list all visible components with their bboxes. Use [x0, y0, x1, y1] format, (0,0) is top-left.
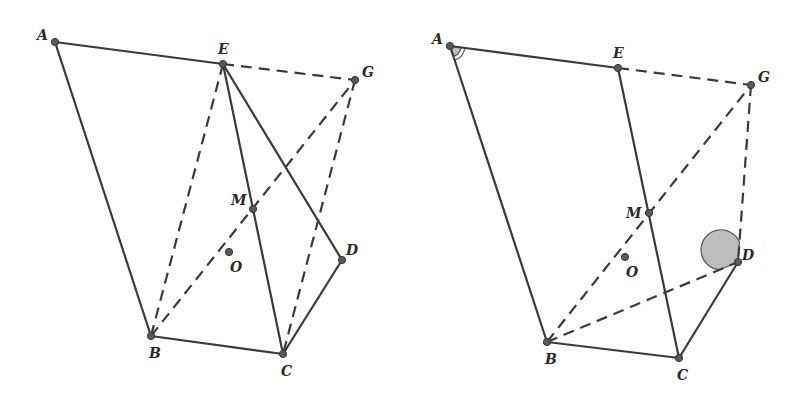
label-d: D — [741, 247, 755, 263]
point-e — [614, 64, 621, 71]
segment-ab — [55, 42, 151, 336]
point-a — [446, 42, 453, 49]
label-o: O — [626, 264, 639, 280]
point-g — [351, 76, 358, 83]
label-m: M — [230, 192, 247, 208]
label-d: D — [345, 242, 359, 258]
point-b — [543, 338, 550, 345]
point-e — [219, 60, 226, 67]
label-c: C — [281, 363, 292, 379]
label-a: A — [430, 31, 443, 47]
dashed-segment-gd — [738, 85, 751, 262]
figure-left: AEGMODBC — [35, 27, 374, 379]
point-m — [645, 209, 652, 216]
segment-ae — [450, 46, 618, 68]
point-c — [279, 350, 286, 357]
point-c — [675, 354, 682, 361]
dashed-segment-bd — [547, 262, 738, 342]
dashed-segment-eg — [618, 68, 751, 85]
point-o — [225, 248, 232, 255]
segment-cd — [679, 262, 738, 358]
label-e: E — [612, 45, 624, 61]
dashed-segment-eg — [223, 64, 355, 80]
point-o — [621, 253, 628, 260]
geometry-canvas: AEGMODBC AEGMODBC — [0, 0, 801, 403]
label-g: G — [758, 69, 770, 85]
label-b: B — [148, 345, 161, 361]
point-m — [249, 205, 256, 212]
label-a: A — [35, 27, 48, 43]
segment-ab — [450, 46, 547, 342]
segment-cd — [283, 260, 342, 354]
point-g — [747, 81, 754, 88]
label-c: C — [677, 367, 688, 383]
dashed-segment-gc — [283, 80, 355, 354]
label-o: O — [230, 259, 243, 275]
segment-bc — [547, 342, 679, 358]
label-b: B — [544, 351, 557, 367]
label-e: E — [217, 41, 229, 57]
label-m: M — [625, 205, 642, 221]
figure-right: AEGMODBC — [430, 31, 770, 383]
point-d — [338, 256, 345, 263]
point-d — [734, 258, 741, 265]
point-b — [147, 332, 154, 339]
segment-ae — [55, 42, 223, 64]
segment-de — [223, 64, 342, 260]
label-g: G — [362, 64, 374, 80]
segment-bc — [151, 336, 283, 354]
point-a — [51, 38, 58, 45]
dashed-segment-eb — [151, 64, 223, 336]
